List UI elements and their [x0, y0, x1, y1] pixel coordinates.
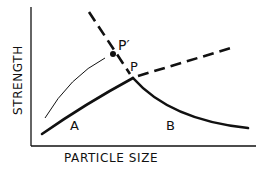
- x-axis-label: PARTICLE SIZE: [64, 151, 158, 165]
- strength-vs-particle-size-diagram: P′ P A B PARTICLE SIZE STRENGTH: [0, 0, 265, 169]
- y-axis-label: STRENGTH: [11, 45, 25, 115]
- point-p-label: P: [130, 59, 138, 74]
- curve-b: [133, 78, 248, 128]
- curve-a-dashed-extension: [138, 48, 231, 76]
- curve-a: [42, 78, 133, 134]
- point-p-prime-marker: [110, 51, 116, 57]
- thin-curve: [45, 58, 105, 118]
- region-a-label: A: [70, 118, 79, 133]
- region-b-label: B: [166, 118, 175, 133]
- point-p-prime-label: P′: [118, 37, 130, 53]
